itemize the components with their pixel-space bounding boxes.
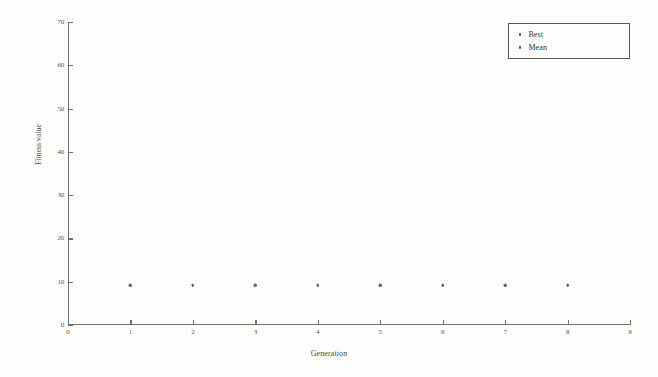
data-point-mean-gen1 [129,284,132,287]
legend-entry-mean: Mean [519,41,629,54]
legend-label-best: Best [528,31,543,39]
x-tick-label: 8 [566,329,569,336]
x-tick-mark [193,320,194,325]
x-tick-label: 6 [441,329,444,336]
y-tick-label: 30 [57,192,64,199]
data-point-mean-gen7 [504,284,507,287]
x-tick-mark [68,320,69,325]
data-point-mean-gen6 [441,284,444,287]
x-tick-mark [568,320,569,325]
x-axis-title: Generation [0,349,658,358]
legend-label-mean: Mean [528,44,547,52]
x-tick-label: 2 [191,329,194,336]
dot-marker-icon [519,46,521,48]
y-tick-mark [68,282,73,283]
legend-entry-best: Best [519,28,629,41]
x-tick-mark [505,320,506,325]
y-tick-label: 70 [57,19,64,26]
x-tick-label: 9 [628,329,631,336]
y-tick-mark [68,109,73,110]
data-point-mean-gen3 [254,284,257,287]
y-tick-label: 0 [61,322,64,329]
y-tick-mark [68,325,73,326]
x-axis-line [68,324,630,325]
dot-marker-icon [519,33,521,35]
y-tick-label: 20 [57,235,64,242]
x-tick-label: 3 [254,329,257,336]
legend-box: Best Mean [508,23,630,59]
y-tick-label: 60 [57,62,64,69]
x-tick-mark [630,320,631,325]
y-tick-mark [68,22,73,23]
fitness-plot-screenshot: 010203040506070 0123456789 Fitness value… [0,0,658,377]
x-tick-label: 4 [316,329,319,336]
data-point-mean-gen2 [192,284,195,287]
y-tick-label: 50 [57,105,64,112]
x-tick-label: 0 [66,329,69,336]
x-tick-mark [255,320,256,325]
plot-area: 010203040506070 0123456789 [68,22,630,325]
y-axis-title: Fitness value [34,95,43,195]
x-tick-mark [130,320,131,325]
y-axis-line [68,22,69,325]
y-tick-label: 10 [57,278,64,285]
data-point-mean-gen4 [316,284,319,287]
x-tick-mark [380,320,381,325]
y-tick-label: 40 [57,148,64,155]
x-tick-label: 7 [503,329,506,336]
x-tick-label: 5 [379,329,382,336]
x-tick-mark [318,320,319,325]
data-point-mean-gen5 [379,284,382,287]
x-tick-mark [443,320,444,325]
y-tick-mark [68,65,73,66]
y-tick-mark [68,195,73,196]
data-point-mean-gen8 [566,284,569,287]
y-tick-mark [68,152,73,153]
x-tick-label: 1 [129,329,132,336]
y-tick-mark [68,238,73,239]
